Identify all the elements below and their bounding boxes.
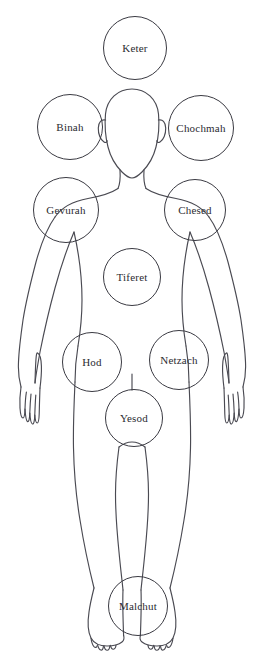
right-hand-edge xyxy=(223,353,229,388)
sephirah-hod[interactable]: Hod xyxy=(62,332,122,392)
sephirah-label-tiferet: Tiferet xyxy=(117,272,148,283)
sephirah-label-malchut: Malchut xyxy=(119,601,157,612)
sephirah-tiferet[interactable]: Tiferet xyxy=(103,248,161,306)
sephirot-body-diagram: Keter Binah Chochmah Gevurah Chesed Tife… xyxy=(0,0,263,668)
human-body-outline xyxy=(0,0,263,668)
neck-outline-right xyxy=(144,170,146,189)
sephirah-malchut[interactable]: Malchut xyxy=(108,576,168,636)
right-arm-outer-outline xyxy=(209,217,246,387)
sephirah-label-keter: Keter xyxy=(122,43,147,54)
sephirah-label-hod: Hod xyxy=(82,357,102,368)
right-leg-outer-outline xyxy=(170,382,191,588)
right-leg-inner-outline xyxy=(141,447,149,590)
sephirah-label-chochmah: Chochmah xyxy=(176,123,225,134)
left-arm-outer-outline xyxy=(18,217,55,387)
sephirah-label-netzach: Netzach xyxy=(160,355,197,366)
sephirah-label-yesod: Yesod xyxy=(120,413,148,424)
sephirah-gevurah[interactable]: Gevurah xyxy=(33,177,99,243)
sephirah-label-gevurah: Gevurah xyxy=(46,205,85,216)
neck-outline xyxy=(118,170,120,189)
sephirah-binah[interactable]: Binah xyxy=(37,94,103,160)
sephirah-label-chesed: Chesed xyxy=(178,205,212,216)
left-leg-inner-outline xyxy=(116,447,124,590)
sephirah-keter[interactable]: Keter xyxy=(103,16,167,80)
head-outline xyxy=(105,89,159,178)
left-leg-outer-outline xyxy=(73,382,94,588)
left-hand-edge xyxy=(35,353,41,388)
torso-right-outline xyxy=(182,232,190,346)
sephirah-chesed[interactable]: Chesed xyxy=(164,179,226,241)
sephirah-netzach[interactable]: Netzach xyxy=(149,330,209,390)
sephirah-chochmah[interactable]: Chochmah xyxy=(168,95,234,161)
sephirah-yesod[interactable]: Yesod xyxy=(105,389,163,447)
sephirah-label-binah: Binah xyxy=(56,122,83,133)
torso-left-outline xyxy=(74,232,82,346)
